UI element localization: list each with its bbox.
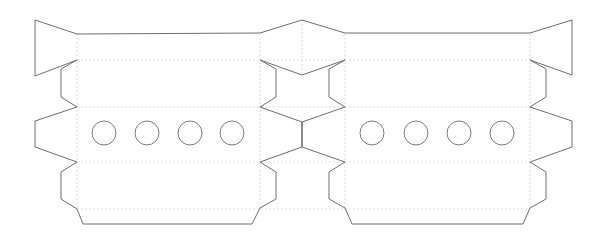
papercraft-net-diagram (0, 0, 609, 244)
background (0, 0, 609, 244)
